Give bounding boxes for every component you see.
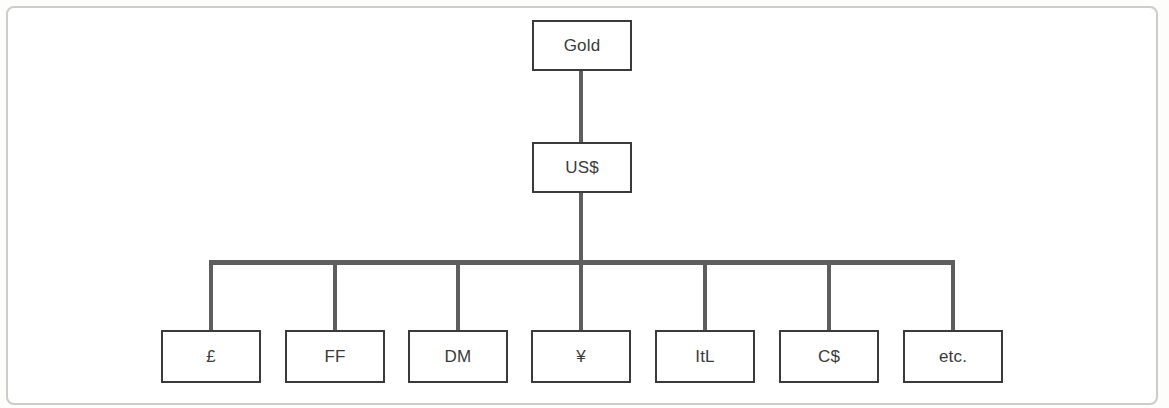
node-etc-label: etc.: [939, 347, 967, 367]
connector-drop-yen: [579, 260, 583, 330]
node-gold-label: Gold: [564, 36, 601, 56]
node-pound: £: [161, 330, 261, 383]
node-yen-label: ¥: [576, 347, 586, 367]
connector-usd-bus: [579, 193, 583, 265]
node-canadian-dollar-label: C$: [818, 347, 840, 367]
node-deutsche-mark-label: DM: [445, 347, 472, 367]
connector-drop-french-franc: [333, 260, 337, 330]
node-us-dollar: US$: [532, 142, 632, 193]
node-canadian-dollar: C$: [779, 330, 879, 383]
diagram-canvas: Gold US$ £ FF DM ¥ ItL C$ etc.: [0, 0, 1169, 408]
node-gold: Gold: [532, 20, 632, 71]
connector-drop-canadian-dollar: [827, 260, 831, 330]
node-french-franc: FF: [285, 330, 385, 383]
node-french-franc-label: FF: [324, 347, 345, 367]
connector-gold-usd: [579, 70, 583, 142]
node-yen: ¥: [531, 330, 631, 383]
connector-drop-deutsche-mark: [456, 260, 460, 330]
node-italian-lira-label: ItL: [695, 347, 715, 367]
node-deutsche-mark: DM: [408, 330, 508, 383]
node-pound-label: £: [206, 347, 216, 367]
connector-drop-italian-lira: [703, 260, 707, 330]
node-italian-lira: ItL: [655, 330, 755, 383]
connector-drop-etc: [951, 260, 955, 330]
connector-drop-pound: [209, 260, 213, 330]
node-etc: etc.: [903, 330, 1003, 383]
node-us-dollar-label: US$: [565, 158, 599, 178]
